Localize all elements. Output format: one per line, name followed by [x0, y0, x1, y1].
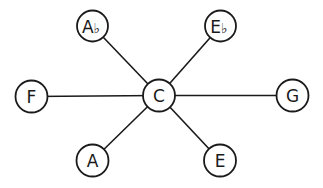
note-letter: A — [82, 17, 94, 37]
node-label: A♭ — [82, 17, 100, 37]
nodes-layer: CA♭E♭FGAE — [16, 11, 309, 177]
flat-symbol-icon: ♭ — [221, 20, 228, 36]
node-f: F — [16, 81, 48, 113]
node-g: G — [277, 80, 309, 112]
node-label: E♭ — [210, 17, 227, 37]
node-label: F — [27, 87, 37, 107]
note-letter: G — [286, 86, 299, 106]
node-e: E — [204, 145, 236, 177]
note-letter: C — [153, 86, 165, 106]
edge-c-f — [32, 96, 160, 97]
note-letter: F — [27, 87, 37, 107]
node-label: A — [87, 151, 99, 171]
node-label: C — [153, 86, 165, 106]
note-letter: E — [210, 17, 221, 37]
node-a: A — [77, 145, 109, 177]
note-letter: E — [215, 151, 226, 171]
node-label: G — [286, 86, 299, 106]
note-relationship-diagram: CA♭E♭FGAE — [0, 0, 323, 188]
node-ab: A♭ — [77, 11, 108, 42]
node-label: E — [215, 151, 226, 171]
flat-symbol-icon: ♭ — [94, 20, 101, 36]
node-eb: E♭ — [205, 11, 236, 42]
note-letter: A — [87, 151, 99, 171]
node-c: C — [143, 80, 175, 112]
